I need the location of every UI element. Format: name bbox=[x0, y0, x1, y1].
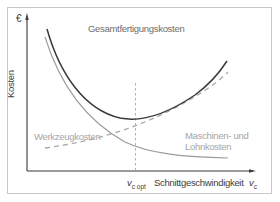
total-cost-curve bbox=[47, 29, 227, 119]
y-unit-label: € bbox=[16, 13, 22, 24]
vc-opt-label: vc opt bbox=[127, 177, 146, 190]
machine-labor-cost-label-line1: Maschinen- und bbox=[185, 130, 248, 141]
total-cost-label: Gesamtfertigungskosten bbox=[88, 23, 184, 34]
y-axis-label: Kosten bbox=[5, 70, 16, 98]
tool-cost-label: Werkzeugkosten bbox=[34, 131, 100, 142]
y-axis-arrow-icon bbox=[25, 13, 28, 20]
vc-opt-subscript: c opt bbox=[132, 183, 146, 190]
machine-labor-cost-label: Maschinen- und Lohnkosten bbox=[185, 130, 248, 152]
machine-labor-cost-label-line2: Lohnkosten bbox=[185, 141, 248, 152]
vc-subscript: c bbox=[254, 183, 257, 190]
x-axis-label: Schnittgeschwindigkeit bbox=[154, 177, 244, 188]
vc-label: vc bbox=[249, 177, 257, 190]
x-axis-arrow-icon bbox=[249, 169, 256, 172]
